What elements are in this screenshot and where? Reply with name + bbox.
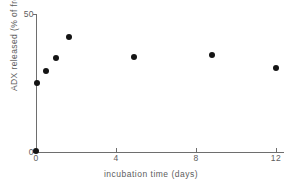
data-point	[273, 65, 279, 71]
x-tick-label: 12	[271, 153, 281, 163]
y-axis-line	[36, 14, 37, 153]
x-tick-label: 0	[33, 153, 38, 163]
data-point	[66, 34, 72, 40]
data-point	[34, 80, 40, 86]
data-point	[209, 52, 215, 58]
plot-area	[0, 0, 302, 187]
data-point	[43, 68, 49, 74]
x-axis-title: incubation time (days)	[0, 169, 302, 179]
data-point	[53, 55, 59, 61]
data-point	[131, 54, 137, 60]
x-tick-label: 4	[113, 153, 118, 163]
x-tick-mark	[196, 148, 197, 152]
x-tick-mark	[116, 148, 117, 152]
y-tick-label: 0	[29, 147, 34, 157]
y-axis-title: ADX released (% of free ADX in MS)	[9, 0, 19, 91]
x-axis-line	[36, 152, 284, 153]
x-tick-label: 8	[193, 153, 198, 163]
y-tick-label: 50	[24, 9, 34, 19]
x-tick-mark	[276, 148, 277, 152]
scatter-chart-figure: 04812 050 incubation time (days) ADX rel…	[0, 0, 302, 187]
